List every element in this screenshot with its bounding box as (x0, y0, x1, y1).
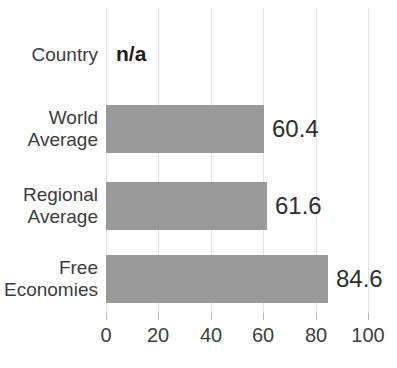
bar-chart: 0 20 40 60 80 100 Country n/a WorldAvera… (0, 0, 397, 368)
tickmark-100 (368, 313, 369, 320)
category-label-free-economies-line2: Economies (4, 279, 98, 300)
tickmark-60 (263, 313, 264, 320)
tickmark-40 (211, 313, 212, 320)
x-axis-tick-label-60: 60 (252, 324, 274, 347)
x-axis-tick-label-80: 80 (305, 324, 327, 347)
category-label-world-average: WorldAverage (0, 107, 98, 151)
value-label-regional-average: 61.6 (275, 192, 322, 220)
category-label-world-average-line2: Average (28, 129, 98, 150)
category-label-world-average-line1: World (49, 107, 98, 128)
category-label-regional-average-line1: Regional (23, 184, 98, 205)
category-label-free-economies-line1: Free (59, 257, 98, 278)
tickmark-80 (316, 313, 317, 320)
category-label-country: Country (0, 44, 98, 66)
x-axis-tick-label-40: 40 (200, 324, 222, 347)
bar-world-average (106, 105, 264, 153)
category-label-free-economies: FreeEconomies (0, 257, 98, 301)
value-label-world-average: 60.4 (272, 115, 319, 143)
tickmark-20 (158, 313, 159, 320)
tickmark-0 (106, 313, 107, 320)
x-axis-tick-label-0: 0 (100, 324, 111, 347)
bar-regional-average (106, 182, 267, 230)
x-axis-tick-label-20: 20 (147, 324, 169, 347)
value-label-country: n/a (116, 42, 146, 66)
value-label-free-economies: 84.6 (336, 265, 383, 293)
category-label-regional-average-line2: Average (28, 206, 98, 227)
x-axis-tick-label-100: 100 (351, 324, 384, 347)
bar-free-economies (106, 255, 328, 303)
category-label-regional-average: RegionalAverage (0, 184, 98, 228)
